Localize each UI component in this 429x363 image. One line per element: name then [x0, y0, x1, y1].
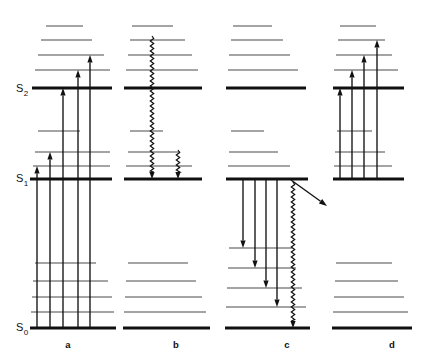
state-label-sub-s2: 2: [24, 89, 29, 98]
jablonski-diagram-root: S2S1S0 abcd: [0, 0, 429, 363]
panel-label-c: c: [284, 339, 289, 350]
state-label-sub-s0: 0: [24, 328, 29, 337]
panel-label-a: a: [65, 339, 71, 350]
state-label-base-s1: S: [16, 172, 23, 184]
state-label-base-s2: S: [16, 82, 23, 94]
jablonski-diagram-svg: S2S1S0 abcd: [0, 0, 429, 363]
panel-label-b: b: [173, 339, 179, 350]
panel-label-d: d: [389, 339, 395, 350]
state-label-sub-s1: 1: [24, 179, 29, 188]
state-label-base-s0: S: [16, 321, 23, 333]
